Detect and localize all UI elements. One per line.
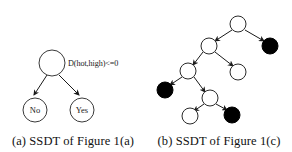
node-b-leaf-white-2 [182, 108, 198, 124]
panel-ssdt-figure-1a: No Yes D(hot,high)<=0 (a) SSDT of Figure… [0, 0, 146, 152]
split-condition-label: D(hot,high)<=0 [68, 59, 118, 68]
caption-panel-b: (b) SSDT of Figure 1(c) [146, 134, 292, 149]
edge-n1-to-n2 [215, 30, 232, 41]
node-b-internal-3 [202, 90, 218, 106]
edge-n2-to-n4 [193, 52, 203, 65]
tree-diagram-a: No Yes [0, 0, 146, 152]
edge-n1-to-n3 [245, 30, 264, 41]
node-leaf-yes-label: Yes [76, 105, 88, 115]
node-b-leaf-black-1 [262, 38, 278, 54]
figure-container: No Yes D(hot,high)<=0 (a) SSDT of Figure… [0, 0, 292, 152]
node-b-leaf-white-1 [230, 64, 246, 80]
node-b-internal-1 [201, 38, 217, 54]
edge-n4-to-n7 [194, 77, 205, 92]
tree-nodes-b [157, 16, 278, 124]
node-root-a [39, 50, 65, 76]
edge-n2-to-n5 [215, 52, 233, 66]
edge-root-to-no [34, 75, 47, 95]
edge-n7-to-n9 [216, 104, 227, 110]
caption-panel-a: (a) SSDT of Figure 1(a) [0, 134, 146, 149]
tree-diagram-b [146, 0, 292, 152]
node-b-root [230, 16, 246, 32]
node-b-leaf-black-2 [157, 82, 173, 98]
node-b-leaf-black-3 [224, 107, 240, 123]
node-leaf-no-label: No [30, 105, 40, 115]
edge-n4-to-n6 [170, 77, 182, 85]
panel-ssdt-figure-1c: (b) SSDT of Figure 1(c) [146, 0, 292, 152]
tree-edges-a [34, 75, 79, 95]
edge-root-to-yes [59, 75, 79, 95]
node-b-internal-2 [180, 63, 196, 79]
